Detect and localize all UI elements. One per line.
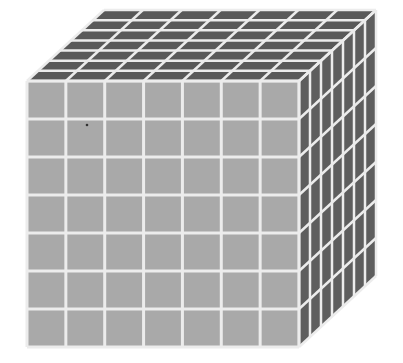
cube-front-face — [27, 81, 299, 347]
cube-svg — [0, 0, 403, 363]
cube-diagram — [0, 0, 403, 363]
speck-mark — [86, 124, 89, 127]
